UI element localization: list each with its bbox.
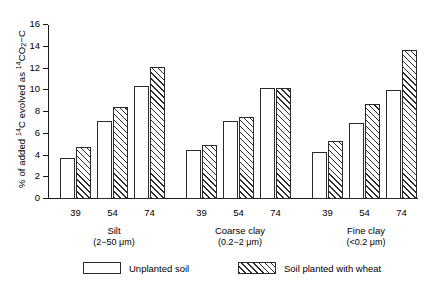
bar-soil-planted-with-wheat — [239, 117, 254, 199]
x-axis-tick-label: 39 — [187, 207, 217, 218]
y-axis-tick: 4 — [43, 155, 48, 156]
y-axis-tick-label: 10 — [29, 83, 40, 94]
y-axis-tick: 0 — [43, 198, 48, 199]
legend-item: Unplanted soil — [83, 262, 189, 274]
group-caption: Fine clay(<0.2 μm) — [306, 225, 425, 248]
bar-soil-planted-with-wheat — [402, 50, 417, 199]
y-axis-tick: 8 — [43, 111, 48, 112]
bar-soil-planted-with-wheat — [202, 145, 217, 199]
y-axis-tick: 6 — [43, 133, 48, 134]
bar-unplanted-soil — [260, 88, 275, 199]
group-caption-name: Silt — [54, 225, 174, 237]
bar-chart-figure: % of added 14C evolved as 14CO2−C 024681… — [0, 0, 425, 290]
y-axis-title-isotope-2: 14 — [15, 61, 22, 69]
y-axis-tick: 10 — [43, 89, 48, 90]
y-axis-tick-label: 0 — [35, 192, 40, 203]
y-axis-tick-label: 12 — [29, 62, 40, 73]
bar-soil-planted-with-wheat — [76, 147, 91, 199]
bar-unplanted-soil — [134, 86, 149, 199]
bar-unplanted-soil — [349, 123, 364, 199]
x-axis-tick-label: 39 — [313, 207, 343, 218]
bar-unplanted-soil — [312, 152, 327, 199]
bar-unplanted-soil — [386, 90, 401, 199]
y-axis-title-mid: C evolved as — [16, 69, 27, 128]
legend-swatch-open — [83, 262, 121, 274]
y-axis-title-isotope-1: 14 — [15, 128, 22, 136]
y-axis-title: % of added 14C evolved as 14CO2−C — [15, 14, 27, 204]
bar-soil-planted-with-wheat — [150, 67, 165, 199]
y-axis-tick-label: 16 — [29, 18, 40, 29]
y-axis-line — [48, 25, 49, 199]
group-caption-name: Fine clay — [306, 225, 425, 237]
group-caption: Silt(2−50 μm) — [54, 225, 174, 248]
bar-soil-planted-with-wheat — [365, 104, 380, 199]
x-axis-tick-label: 74 — [135, 207, 165, 218]
group-caption-name: Coarse clay — [180, 225, 300, 237]
plot-area: 0246810121416 395474395474395474 Silt(2−… — [48, 25, 418, 199]
x-axis-tick-label: 39 — [61, 207, 91, 218]
x-axis-tick-label: 74 — [387, 207, 417, 218]
bar-unplanted-soil — [97, 121, 112, 199]
legend-label: Unplanted soil — [129, 263, 189, 274]
y-axis-tick: 12 — [43, 68, 48, 69]
y-axis-tick-label: 14 — [29, 40, 40, 51]
x-axis-tick-label: 54 — [98, 207, 128, 218]
y-axis-tick-label: 6 — [35, 127, 40, 138]
y-axis-tick-label: 8 — [35, 105, 40, 116]
y-axis-tick: 16 — [43, 24, 48, 25]
x-axis-tick-label: 54 — [224, 207, 254, 218]
bar-unplanted-soil — [223, 121, 238, 199]
y-axis-title-prefix: % of added — [16, 136, 27, 188]
y-axis-title-co: CO — [16, 47, 27, 61]
group-caption-size-range: (0.2−2 μm) — [180, 237, 300, 249]
bar-soil-planted-with-wheat — [113, 107, 128, 199]
group-caption-size-range: (2−50 μm) — [54, 237, 174, 249]
bar-unplanted-soil — [186, 150, 201, 199]
x-axis-tick-label: 54 — [350, 207, 380, 218]
y-axis-tick-label: 2 — [35, 170, 40, 181]
bar-unplanted-soil — [60, 158, 75, 199]
y-axis-title-suffix: −C — [16, 30, 27, 43]
x-axis-tick-label: 74 — [261, 207, 291, 218]
legend-swatch-hatched — [238, 262, 276, 274]
bar-soil-planted-with-wheat — [328, 141, 343, 199]
y-axis-tick-label: 4 — [35, 149, 40, 160]
group-caption-size-range: (<0.2 μm) — [306, 237, 425, 249]
chart-legend: Unplanted soilSoil planted with wheat — [0, 262, 425, 282]
y-axis-tick: 2 — [43, 176, 48, 177]
legend-label: Soil planted with wheat — [284, 263, 381, 274]
legend-item: Soil planted with wheat — [238, 262, 381, 274]
y-axis-title-subscript: 2 — [20, 43, 27, 47]
bar-soil-planted-with-wheat — [276, 88, 291, 199]
group-caption: Coarse clay(0.2−2 μm) — [180, 225, 300, 248]
y-axis-tick: 14 — [43, 46, 48, 47]
